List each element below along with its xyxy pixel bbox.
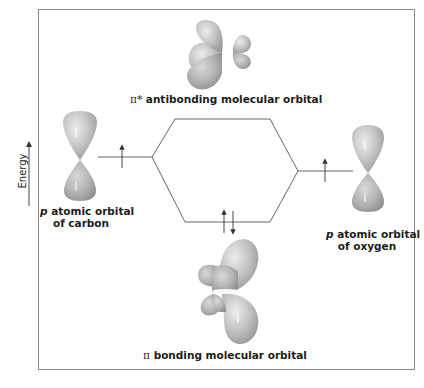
carbon-p-label-line2: of carbon [40, 217, 122, 229]
oxygen-p-orbital-shape [352, 125, 384, 212]
oxygen-p-label-line1: atomic orbital [337, 228, 420, 240]
carbon-p-label-line1: atomic orbital [51, 205, 134, 217]
bonding-label-text: bonding molecular orbital [154, 349, 307, 361]
antibonding-orbital-label: π* antibonding molecular orbital [130, 93, 314, 105]
bonding-orbital-shape [198, 239, 258, 344]
carbon-p-orbital-label: p atomic orbital of carbon [40, 205, 122, 229]
oxygen-p-orbital-label: p atomic orbital of oxygen [326, 228, 408, 252]
oxygen-p-symbol: p [326, 228, 334, 240]
antibonding-orbital-shape [187, 20, 251, 90]
antibonding-symbol: π* [130, 93, 142, 105]
bonding-symbol: π [143, 349, 150, 361]
mo-diagram-canvas [0, 0, 424, 388]
energy-axis-label: Energy [17, 159, 28, 189]
electron-arrows [122, 147, 325, 233]
carbon-p-orbital-shape [63, 111, 97, 201]
carbon-p-symbol: p [40, 205, 48, 217]
correlation-lines [98, 119, 353, 222]
antibonding-label-text: antibonding molecular orbital [146, 93, 322, 105]
oxygen-p-label-line2: of oxygen [326, 240, 408, 252]
bonding-orbital-label: π bonding molecular orbital [140, 349, 310, 361]
